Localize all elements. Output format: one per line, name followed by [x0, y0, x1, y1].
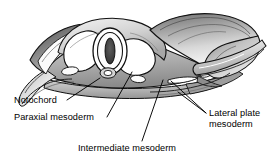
embryo-illustration	[0, 0, 276, 162]
notochord-structure	[100, 68, 116, 78]
notochord-core	[104, 70, 112, 75]
label-lateral-plate-mesoderm: Lateral plate mesoderm	[209, 108, 275, 129]
label-lateral-line-1: Lateral plate	[209, 108, 260, 118]
label-intermediate-mesoderm: Intermediate mesoderm	[78, 143, 176, 154]
label-lateral-line-2: mesoderm	[209, 119, 253, 129]
leader-lateral-lower	[178, 92, 206, 113]
label-notochord: Notochord	[14, 95, 57, 106]
figure-embryo-mesoderm: Notochord Paraxial mesoderm Intermediate…	[0, 0, 276, 162]
neural-tube-lumen	[105, 38, 115, 64]
label-paraxial-mesoderm: Paraxial mesoderm	[14, 112, 94, 123]
